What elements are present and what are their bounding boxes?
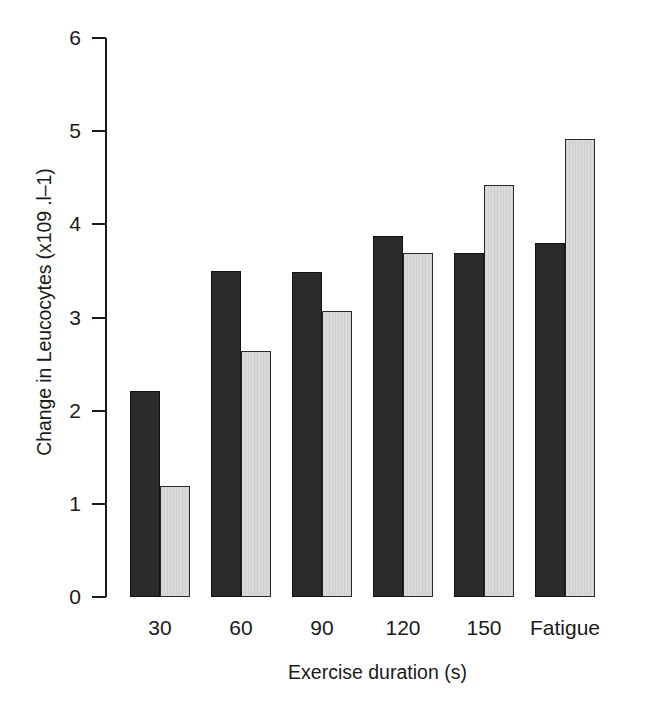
y-axis-tick xyxy=(92,37,106,39)
bar-dark xyxy=(454,253,484,597)
bar-dark xyxy=(130,391,160,597)
bar-dark xyxy=(373,236,403,597)
bar-light xyxy=(160,486,190,597)
y-axis-tick-label: 1 xyxy=(41,493,81,514)
y-axis-tick-label: 0 xyxy=(41,586,81,607)
bar-group xyxy=(292,38,352,597)
bar-dark xyxy=(211,271,241,597)
y-axis-tick-label: 4 xyxy=(41,213,81,234)
y-axis-tick-label: 6 xyxy=(41,27,81,48)
y-axis-tick-label: 2 xyxy=(41,400,81,421)
bar-chart-figure: Change in Leucocytes (x109 .l–1) Exercis… xyxy=(0,0,660,711)
bar-group xyxy=(211,38,271,597)
bar-light xyxy=(322,311,352,597)
y-axis-tick xyxy=(92,410,106,412)
bar-group xyxy=(535,38,595,597)
bar-group xyxy=(373,38,433,597)
y-axis-tick xyxy=(92,503,106,505)
plot-area xyxy=(105,38,650,597)
bar-light xyxy=(403,253,433,597)
bar-light xyxy=(565,139,595,597)
y-axis-tick xyxy=(92,130,106,132)
y-axis-tick xyxy=(92,596,106,598)
y-axis-tick xyxy=(92,223,106,225)
bar-light xyxy=(241,351,271,597)
y-axis-tick-label: 5 xyxy=(41,120,81,141)
bar-group xyxy=(130,38,190,597)
bar-dark xyxy=(535,243,565,597)
bar-dark xyxy=(292,272,322,597)
x-axis-title: Exercise duration (s) xyxy=(105,661,650,684)
y-axis-tick xyxy=(92,317,106,319)
bar-light xyxy=(484,185,514,597)
bar-group xyxy=(454,38,514,597)
bars-container xyxy=(105,38,650,597)
y-axis-tick-label: 3 xyxy=(41,307,81,328)
x-axis-tick-label: Fatigue xyxy=(495,617,635,638)
